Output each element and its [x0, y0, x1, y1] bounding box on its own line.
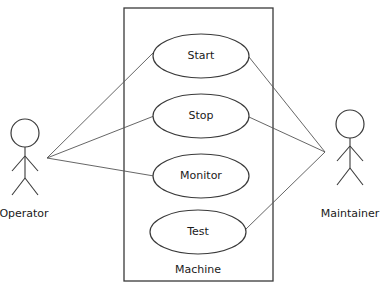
association-operator-start	[47, 52, 154, 158]
actor-label-operator: Operator	[0, 207, 49, 220]
operator-associations	[47, 52, 154, 176]
use-case-label-stop: Stop	[188, 109, 213, 122]
use-case-start[interactable]: Start	[153, 34, 249, 78]
use-case-label-start: Start	[188, 49, 216, 62]
use-case-diagram: Machine Start Stop Monitor Test	[0, 0, 384, 289]
association-maintainer-start	[249, 57, 325, 152]
system-label: Machine	[175, 263, 221, 276]
use-case-label-monitor: Monitor	[180, 169, 222, 182]
actor-operator[interactable]: Operator	[0, 119, 49, 220]
stick-figure-icon	[336, 110, 364, 185]
association-maintainer-stop	[249, 117, 325, 152]
actor-label-maintainer: Maintainer	[321, 207, 380, 220]
actor-maintainer[interactable]: Maintainer	[321, 110, 380, 220]
maintainer-associations	[246, 57, 325, 229]
association-operator-monitor	[47, 158, 154, 176]
use-case-stop[interactable]: Stop	[153, 94, 249, 138]
association-operator-stop	[47, 116, 154, 158]
association-maintainer-test	[246, 152, 325, 229]
use-case-label-test: Test	[186, 225, 209, 238]
use-case-test[interactable]: Test	[150, 210, 246, 254]
use-case-monitor[interactable]: Monitor	[153, 154, 249, 198]
stick-figure-icon	[11, 119, 39, 195]
